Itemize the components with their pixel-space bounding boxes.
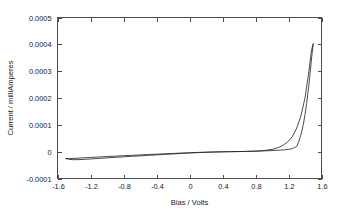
- y-tick-label: 0.0004: [29, 40, 52, 49]
- y-tick-label: 0.0002: [29, 94, 52, 103]
- y-tick-label: 0.0003: [29, 67, 52, 76]
- x-tick-label: 0: [188, 182, 192, 191]
- y-tick-label: -0.0001: [26, 175, 51, 184]
- x-tick-label: 1.6: [317, 182, 327, 191]
- y-tick-label: 0: [47, 148, 51, 157]
- y-axis-title: Current / milliAmperes: [6, 60, 15, 135]
- x-tick-label: -0.8: [118, 182, 131, 191]
- x-tick-label: 0.4: [218, 182, 228, 191]
- x-tick-labels: -1.6-1.2-0.8-0.400.40.81.21.6: [52, 182, 328, 191]
- chart-figure: -1.6-1.2-0.8-0.400.40.81.21.6 -0.000100.…: [0, 0, 337, 217]
- y-tick-label: 0.0005: [29, 14, 52, 23]
- x-tick-label: -0.4: [151, 182, 164, 191]
- iv-curve-plot: -1.6-1.2-0.8-0.400.40.81.21.6 -0.000100.…: [0, 0, 337, 217]
- series-path: [66, 44, 314, 160]
- series-path: [66, 44, 314, 159]
- axis-ticks: [58, 18, 323, 180]
- x-tick-label: 1.2: [284, 182, 294, 191]
- x-tick-label: -1.6: [52, 182, 65, 191]
- y-tick-labels: -0.000100.00010.00020.00030.00040.0005: [26, 14, 51, 184]
- x-tick-label: -1.2: [85, 182, 98, 191]
- x-axis-title: Bias / Volts: [171, 198, 209, 207]
- x-tick-label: 0.8: [251, 182, 261, 191]
- data-curves: [66, 44, 314, 160]
- plot-frame: [58, 18, 322, 179]
- y-tick-label: 0.0001: [29, 121, 52, 130]
